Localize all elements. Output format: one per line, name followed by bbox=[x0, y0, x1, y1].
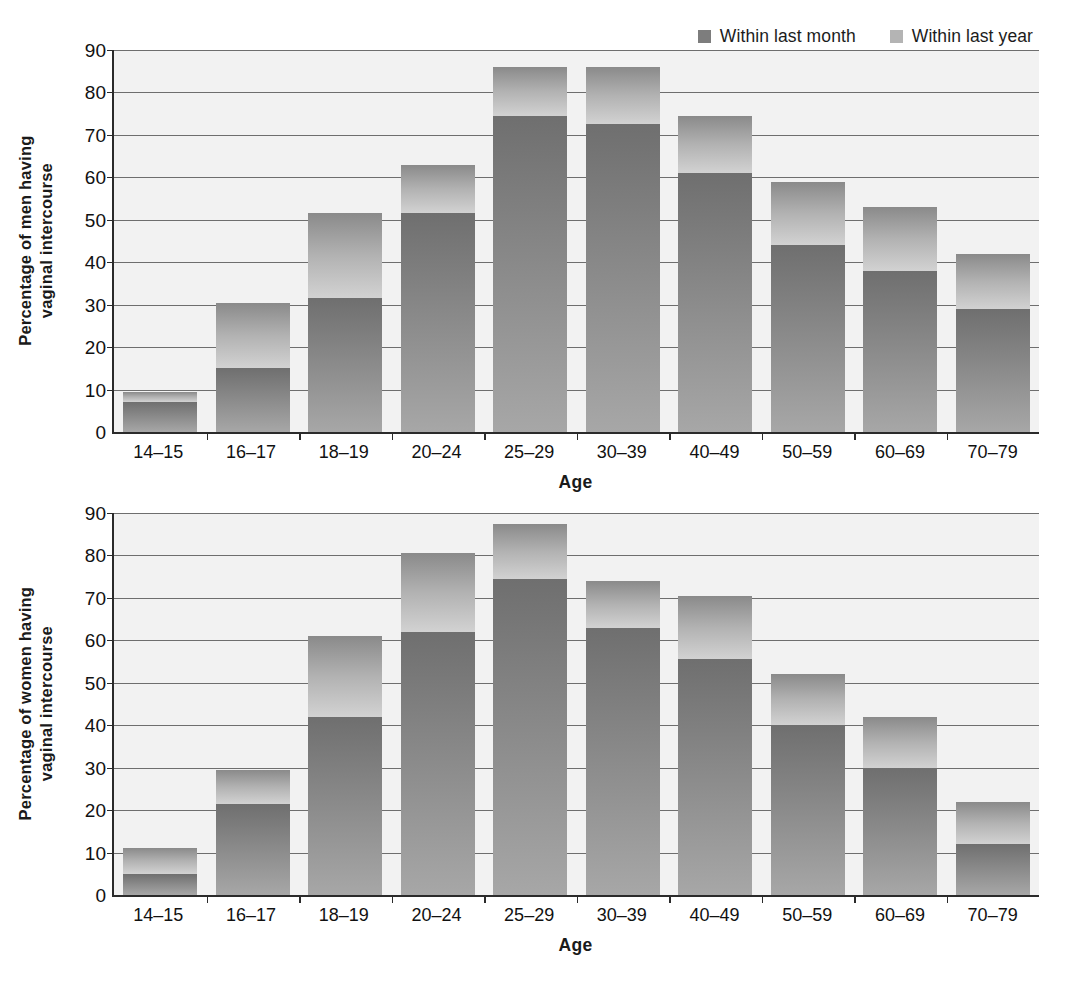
bar-segment-within-last-year bbox=[216, 303, 290, 369]
x-tick-label: 16–17 bbox=[226, 442, 276, 463]
chart-men: Percentage of men having vaginal interco… bbox=[0, 50, 1069, 490]
bar-segment-within-last-year bbox=[956, 802, 1030, 844]
y-tick-label: 30 bbox=[85, 758, 106, 777]
bar-segment-within-last-year bbox=[123, 392, 197, 403]
x-tick-label: 18–19 bbox=[319, 442, 369, 463]
y-tick-mark bbox=[107, 135, 114, 136]
bar-30–39 bbox=[586, 581, 660, 895]
x-tick-mark bbox=[762, 895, 764, 903]
x-tick-label: 60–69 bbox=[875, 442, 925, 463]
x-axis-title-men: Age bbox=[112, 472, 1039, 493]
y-tick-mark bbox=[107, 853, 114, 854]
x-tick-label: 30–39 bbox=[597, 442, 647, 463]
bar-segment-within-last-month bbox=[401, 632, 475, 895]
legend-swatch-month-icon bbox=[698, 30, 711, 43]
x-tick-mark bbox=[854, 895, 856, 903]
x-tick-label: 20–24 bbox=[411, 442, 461, 463]
y-tick-label: 30 bbox=[85, 295, 106, 314]
bar-14–15 bbox=[123, 848, 197, 895]
bar-segment-within-last-month bbox=[216, 368, 290, 432]
bar-60–69 bbox=[863, 207, 937, 432]
bar-50–59 bbox=[771, 674, 845, 895]
chart-women: Percentage of women having vaginal inter… bbox=[0, 513, 1069, 975]
x-tick-label: 18–19 bbox=[319, 905, 369, 926]
bar-18–19 bbox=[308, 213, 382, 432]
x-tick-label: 40–49 bbox=[690, 905, 740, 926]
y-tick-mark bbox=[107, 810, 114, 811]
bar-segment-within-last-year bbox=[586, 581, 660, 628]
x-tick-label: 60–69 bbox=[875, 905, 925, 926]
bar-segment-within-last-month bbox=[771, 245, 845, 432]
y-tick-mark bbox=[107, 262, 114, 263]
bar-16–17 bbox=[216, 303, 290, 432]
x-tick-mark bbox=[207, 895, 209, 903]
y-tick-mark bbox=[107, 305, 114, 306]
bar-segment-within-last-month bbox=[863, 271, 937, 432]
plot-canvas-women bbox=[112, 513, 1039, 897]
bar-segment-within-last-month bbox=[216, 804, 290, 895]
y-tick-label: 70 bbox=[85, 125, 106, 144]
x-tick-label: 14–15 bbox=[133, 442, 183, 463]
x-tick-label: 14–15 bbox=[133, 905, 183, 926]
bar-50–59 bbox=[771, 182, 845, 432]
bar-30–39 bbox=[586, 67, 660, 432]
x-tick-label: 70–79 bbox=[968, 905, 1018, 926]
y-tick-mark bbox=[107, 598, 114, 599]
y-tick-label: 10 bbox=[85, 380, 106, 399]
bar-segment-within-last-year bbox=[493, 524, 567, 579]
x-tick-mark bbox=[669, 895, 671, 903]
y-axis-tick-labels-women: 0102030405060708090 bbox=[66, 513, 106, 895]
y-tick-label: 90 bbox=[85, 41, 106, 60]
y-tick-mark bbox=[107, 513, 114, 514]
bar-segment-within-last-year bbox=[863, 717, 937, 768]
bar-segment-within-last-year bbox=[123, 848, 197, 873]
y-axis-title-men-line1: Percentage of men having bbox=[15, 136, 36, 346]
bar-segment-within-last-year bbox=[401, 165, 475, 214]
legend-swatch-year-icon bbox=[890, 30, 903, 43]
plot-area-women: 0102030405060708090 14–1516–1718–1920–24… bbox=[66, 513, 1051, 933]
y-tick-mark bbox=[107, 725, 114, 726]
x-tick-mark bbox=[947, 895, 949, 903]
y-tick-mark bbox=[107, 555, 114, 556]
x-tick-mark bbox=[947, 432, 949, 440]
bar-segment-within-last-year bbox=[771, 674, 845, 725]
bar-70–79 bbox=[956, 254, 1030, 432]
bar-20–24 bbox=[401, 553, 475, 895]
y-tick-mark bbox=[107, 768, 114, 769]
bar-segment-within-last-month bbox=[863, 768, 937, 895]
y-axis-title-men: Percentage of men having vaginal interco… bbox=[6, 50, 66, 432]
y-tick-label: 70 bbox=[85, 588, 106, 607]
bar-20–24 bbox=[401, 165, 475, 432]
bar-segment-within-last-month bbox=[493, 579, 567, 895]
bar-segment-within-last-month bbox=[401, 213, 475, 432]
bar-25–29 bbox=[493, 524, 567, 895]
bar-series-women bbox=[114, 513, 1039, 895]
bar-70–79 bbox=[956, 802, 1030, 895]
y-axis-title-women-line2: vaginal intercourse bbox=[36, 587, 57, 821]
plot-canvas-men bbox=[112, 50, 1039, 434]
bar-segment-within-last-month bbox=[493, 116, 567, 432]
bar-segment-within-last-month bbox=[956, 844, 1030, 895]
bar-segment-within-last-year bbox=[678, 596, 752, 660]
y-tick-label: 60 bbox=[85, 631, 106, 650]
bar-segment-within-last-month bbox=[123, 874, 197, 895]
x-tick-label: 70–79 bbox=[968, 442, 1018, 463]
y-tick-mark bbox=[107, 683, 114, 684]
x-tick-label: 20–24 bbox=[411, 905, 461, 926]
bar-segment-within-last-year bbox=[956, 254, 1030, 309]
y-tick-label: 40 bbox=[85, 253, 106, 272]
y-tick-label: 80 bbox=[85, 83, 106, 102]
y-tick-label: 20 bbox=[85, 801, 106, 820]
x-axis-title-women: Age bbox=[112, 935, 1039, 956]
y-tick-label: 0 bbox=[95, 423, 106, 442]
bar-18–19 bbox=[308, 636, 382, 895]
x-tick-mark bbox=[207, 432, 209, 440]
bar-40–49 bbox=[678, 596, 752, 895]
bar-segment-within-last-year bbox=[863, 207, 937, 271]
x-tick-label: 25–29 bbox=[504, 442, 554, 463]
bar-segment-within-last-month bbox=[586, 628, 660, 895]
x-tick-mark bbox=[762, 432, 764, 440]
bar-segment-within-last-year bbox=[678, 116, 752, 173]
y-tick-label: 60 bbox=[85, 168, 106, 187]
y-tick-mark bbox=[107, 390, 114, 391]
